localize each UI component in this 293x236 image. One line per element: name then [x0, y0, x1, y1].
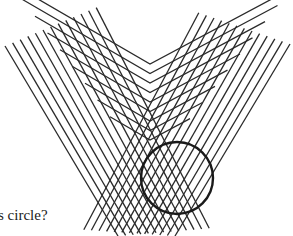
question-caption: s circle? — [0, 207, 48, 224]
left-band-line — [66, 20, 179, 230]
right-band-line — [175, 44, 290, 236]
right-diagonal-line-band — [84, 13, 290, 236]
left-band-line — [81, 14, 194, 230]
right-band-line — [152, 36, 267, 234]
heart-illusion-figure — [0, 0, 293, 236]
left-band-line — [73, 17, 186, 230]
left-band-line — [28, 36, 141, 234]
right-band-line — [167, 41, 282, 235]
